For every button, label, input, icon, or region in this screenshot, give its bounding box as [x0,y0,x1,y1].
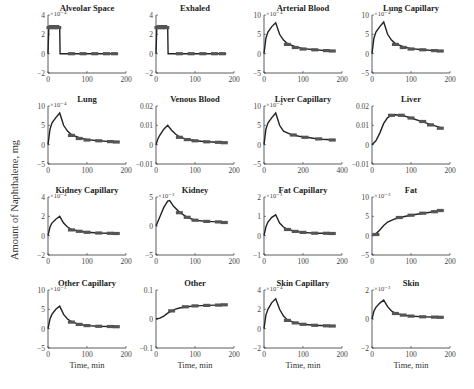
y-tick-label: −2 [37,69,45,78]
subplot-fat-capillary: Fat Capillary210−10100200×10⁻³ [253,185,348,266]
y-tick-label: 0 [41,50,45,59]
x-tick-label: 200 [120,350,132,359]
subplot-title: Fat Capillary [279,185,329,195]
x-tick-label: 100 [405,257,417,266]
data-marker [329,232,336,235]
y-tick-label: 0 [41,325,45,334]
subplot-liver: Liver0.020.010−0.010100200 [352,94,456,175]
y-tick-label: 0.01 [140,121,153,130]
y-tick-label: 0 [149,315,153,324]
y-tick-label: −0.01 [352,160,370,169]
data-marker [329,138,336,141]
data-marker [372,233,379,236]
data-marker [192,304,199,307]
subplot-alveolar-space: Alveolar Space420−20100200×10⁻⁴ [37,3,132,84]
y-tick-label: 0 [149,222,153,231]
y-exponent-label: ×10⁻³ [374,192,390,199]
data-marker [408,47,415,50]
data-marker [184,138,191,141]
simulation-line [372,115,442,145]
subplot-title: Arterial Blood [277,3,330,13]
x-tick-label: 200 [444,75,456,84]
data-marker [311,324,318,327]
x-tick-label: 0 [154,257,158,266]
simulation-line [372,22,442,54]
data-marker [176,136,183,139]
data-marker [311,48,318,51]
subplot-title: Fat [405,185,417,195]
y-exponent-label: ×10⁻³ [266,192,282,199]
data-marker [300,47,307,50]
subplot-title: Other Capillary [58,278,117,288]
x-tick-label: 200 [444,350,456,359]
y-exponent-label: ×10⁻⁴ [50,10,67,17]
y-exponent-label: ×10⁻⁴ [266,10,283,17]
x-tick-label: 200 [228,75,240,84]
data-marker [203,304,210,307]
x-tick-label: 200 [228,350,240,359]
data-marker [437,49,444,52]
data-marker [427,123,434,126]
x-tick-label: 0 [262,350,266,359]
simulation-line [264,113,334,145]
subplot-lung-capillary: Lung Capillary1050−50100200×10⁻⁴ [361,3,456,84]
x-tick-label: 200 [336,350,348,359]
y-tick-label: −5 [37,344,45,353]
y-tick-label: 0 [41,232,45,241]
x-axis-label: Time, min [285,360,321,370]
data-marker [113,232,120,235]
subplot-arterial-blood: Arterial Blood1050−50100200×10⁻⁴ [253,3,348,84]
x-axis-label: Time, min [177,360,213,370]
x-tick-label: 0 [46,166,50,175]
data-marker [162,26,169,29]
simulation-line [48,113,118,145]
y-exponent-label: ×10⁻⁴ [266,285,283,292]
x-tick-label: 100 [189,257,201,266]
x-tick-label: 0 [154,350,158,359]
data-marker [184,216,191,219]
subplot-liver-capillary: Liver Capillary1050−50200400×10⁻⁴ [253,94,348,175]
y-tick-label: 0 [257,325,261,334]
data-marker [221,221,228,224]
y-tick-label: −5 [361,69,369,78]
subplot-title: Skin [403,278,420,288]
x-tick-label: 100 [81,75,93,84]
data-marker [76,323,83,326]
subplot-kidney: Kidney50−50100200×10⁻³ [145,185,240,266]
y-tick-label: 0 [149,50,153,59]
x-tick-label: 100 [405,350,417,359]
y-tick-label: 10 [254,11,262,20]
data-marker [329,49,336,52]
data-marker [95,325,102,328]
subplot-title: Lung Capillary [383,3,440,13]
simulation-line [156,305,226,319]
y-exponent-label: ×10⁻⁴ [50,101,67,108]
data-marker [400,46,407,49]
x-tick-label: 100 [297,350,309,359]
data-marker [219,52,226,55]
data-marker [76,137,83,140]
data-marker [292,230,299,233]
x-axis-label: Time, min [393,360,429,370]
y-tick-label: 4 [257,286,261,295]
x-tick-label: 100 [81,257,93,266]
data-marker [192,219,199,222]
data-marker [221,303,228,306]
y-tick-label: 10 [362,193,370,202]
data-marker [408,315,415,318]
y-tick-label: −5 [253,160,261,169]
x-tick-label: 0 [262,257,266,266]
y-exponent-label: ×10⁻³ [50,285,66,292]
y-tick-label: 0.1 [144,286,154,295]
data-marker [192,139,199,142]
data-marker [68,321,75,324]
y-tick-label: 0 [41,141,45,150]
data-marker [284,228,291,231]
subplot-title: Liver [401,94,421,104]
y-tick-label: 0 [149,141,153,150]
y-exponent-label: ×10⁻⁴ [266,101,283,108]
data-marker [103,52,110,55]
x-tick-label: 0 [46,75,50,84]
data-marker [329,324,336,327]
x-tick-label: 0 [370,75,374,84]
